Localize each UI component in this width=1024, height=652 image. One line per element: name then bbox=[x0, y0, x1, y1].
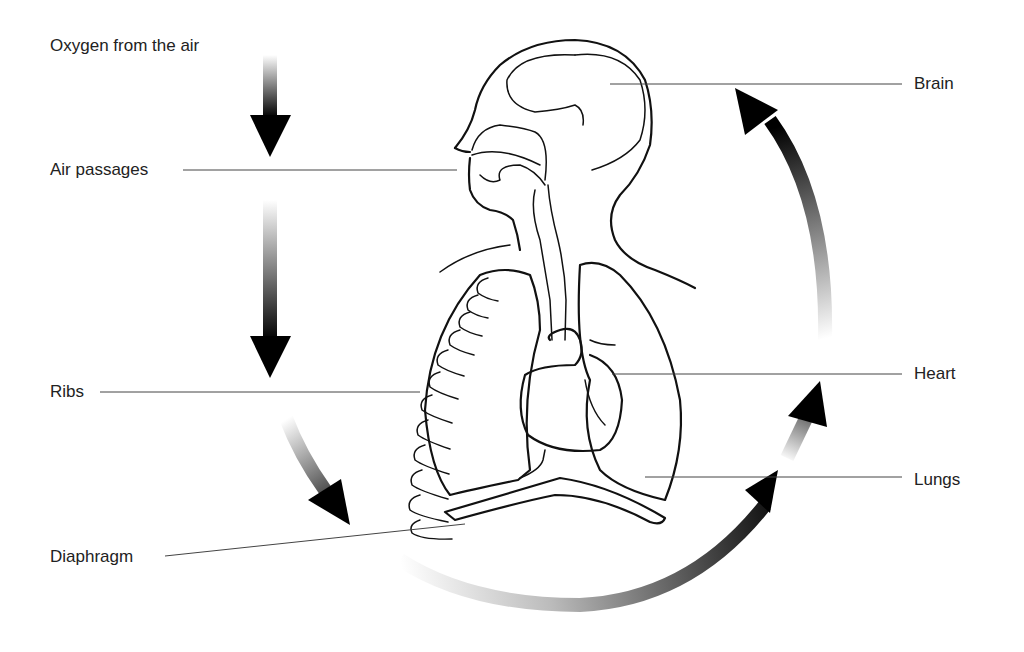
respiratory-diagram bbox=[0, 0, 1024, 652]
leader-diaphragm bbox=[165, 524, 465, 556]
label-brain: Brain bbox=[914, 74, 954, 94]
trachea bbox=[533, 190, 552, 340]
arrow-bottom-arc bbox=[400, 470, 778, 605]
brain-outline bbox=[575, 54, 645, 170]
label-oxygen-from-air: Oxygen from the air bbox=[50, 36, 199, 56]
label-air-passages: Air passages bbox=[50, 160, 148, 180]
arrow-ribs-to-diaphragm bbox=[286, 418, 350, 525]
lungs-illustration bbox=[425, 263, 681, 500]
arrow-air-to-passages bbox=[250, 55, 291, 157]
label-heart: Heart bbox=[914, 364, 956, 384]
label-diaphragm: Diaphragm bbox=[50, 547, 133, 567]
label-lungs: Lungs bbox=[914, 470, 960, 490]
arrow-passages-to-lungs bbox=[250, 200, 291, 378]
label-ribs: Ribs bbox=[50, 382, 84, 402]
arrow-lungs-to-heart bbox=[787, 381, 827, 458]
arrow-heart-to-brain bbox=[735, 88, 825, 340]
diaphragm-illustration bbox=[445, 478, 665, 523]
